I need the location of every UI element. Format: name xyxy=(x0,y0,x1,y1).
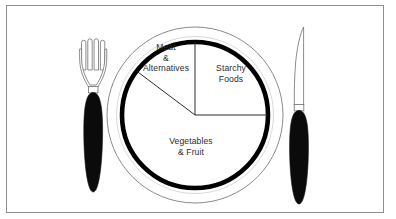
knife-handle xyxy=(290,111,309,205)
plate-diagram-canvas xyxy=(0,0,396,219)
plate-diagram-screenshot: Meat & Alternatives Starchy Foods Vegeta… xyxy=(0,0,396,219)
knife-icon xyxy=(290,27,309,204)
fork-ferrule xyxy=(88,87,98,93)
fork-tine-2 xyxy=(88,39,92,70)
fork-icon xyxy=(80,39,107,192)
knife-ferrule xyxy=(294,105,304,111)
fork-tine-3 xyxy=(94,39,98,70)
knife-blade xyxy=(294,27,303,105)
fork-handle xyxy=(84,93,103,193)
